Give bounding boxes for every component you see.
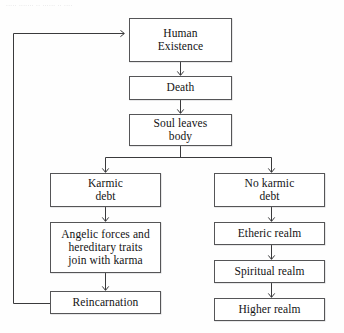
node-karmic-debt[interactable]: Karmic debt xyxy=(50,173,161,207)
node-angelic-forces[interactable]: Angelic forces and hereditary traits joi… xyxy=(50,222,161,273)
node-no-karmic-debt[interactable]: No karmic debt xyxy=(214,173,325,207)
node-soul-leaves-body[interactable]: Soul leaves body xyxy=(129,114,232,146)
node-human-existence[interactable]: Human Existence xyxy=(129,18,232,62)
node-higher-realm[interactable]: Higher realm xyxy=(214,298,325,321)
flowchart-figure: ..... ....... .. ...... .. .... xyxy=(0,0,344,333)
node-death[interactable]: Death xyxy=(129,76,232,100)
node-spiritual-realm[interactable]: Spiritual realm xyxy=(214,260,325,283)
node-reincarnation[interactable]: Reincarnation xyxy=(50,291,161,314)
node-etheric-realm[interactable]: Etheric realm xyxy=(214,222,325,245)
